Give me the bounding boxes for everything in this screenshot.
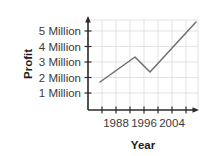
x-axis-title: Year [131, 139, 156, 151]
line-chart: 5 Million 4 Million 3 Million 2 Million … [0, 0, 204, 156]
x-tick-label-1996: 1996 [131, 117, 157, 129]
x-tick-label-1988: 1988 [103, 117, 129, 129]
x-tick-label-2004: 2004 [159, 117, 185, 129]
y-tick-label-2-million: 2 Million [39, 72, 81, 84]
y-axis-title: Profit [22, 49, 34, 79]
y-tick-label-4-million: 4 Million [39, 41, 81, 53]
y-axis-tick-labels: 5 Million 4 Million 3 Million 2 Million … [39, 25, 81, 99]
chart-figure: 5 Million 4 Million 3 Million 2 Million … [0, 0, 204, 156]
x-axis-tick-labels: 1988 1996 2004 [103, 117, 185, 129]
y-tick-label-1-million: 1 Million [39, 87, 81, 99]
y-tick-label-3-million: 3 Million [39, 56, 81, 68]
y-tick-label-5-million: 5 Million [39, 25, 81, 37]
